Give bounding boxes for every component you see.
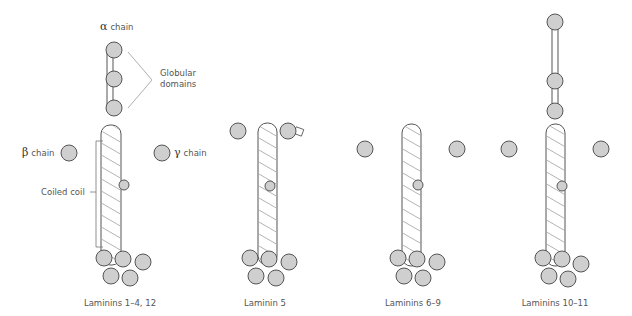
laminin-diagram: αchain Globular domains βchain γchain Co…	[0, 0, 632, 316]
beta-chain-label: βchain	[22, 146, 54, 159]
structure-laminins-1-4-12: αchain Globular domains βchain γchain Co…	[22, 20, 207, 308]
globular-domains-label-2: domains	[160, 79, 197, 89]
structure-laminins-10-11: Laminins 10–11	[501, 14, 609, 308]
globular-domain	[154, 145, 170, 161]
caption-laminins-1-4-12: Laminins 1–4, 12	[84, 298, 156, 308]
structure-laminins-6-9: Laminins 6–9	[357, 124, 465, 308]
caption-laminin-5: Laminin 5	[244, 298, 286, 308]
globular-domains-label-1: Globular	[160, 68, 197, 78]
coiled-coil-label: Coiled coil	[41, 187, 85, 197]
globular-domain	[61, 145, 77, 161]
globular-domain	[106, 100, 122, 116]
globular-domain	[106, 42, 122, 58]
alpha-chain-label: αchain	[100, 20, 133, 33]
small-globule	[119, 180, 129, 190]
caption-laminins-6-9: Laminins 6–9	[385, 298, 441, 308]
structure-laminin-5: Laminin 5	[230, 123, 304, 308]
globular-domain	[106, 71, 122, 87]
gamma-chain-label: γchain	[174, 146, 207, 159]
caption-laminins-10-11: Laminins 10–11	[522, 298, 589, 308]
